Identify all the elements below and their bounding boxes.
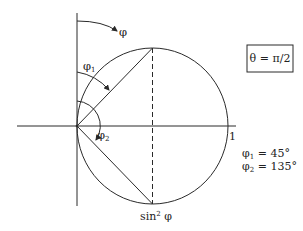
origin-point: [76, 125, 79, 128]
phi-label: φ: [119, 25, 127, 39]
polar-diagram: φ φ1 φ2 1 sin2 φ θ = π/2 φ1 = 45° φ2 = 1…: [0, 0, 303, 231]
phi1-label: φ1: [83, 59, 96, 74]
phi2-label: φ2: [97, 128, 110, 143]
phi2-value-label: φ2 = 135°: [242, 160, 297, 174]
phi1-arc-arrow: [77, 72, 109, 90]
phi1-value-label: φ1 = 45°: [242, 147, 290, 161]
unit-mark-label: 1: [229, 130, 236, 143]
theta-label: θ = π/2: [250, 52, 291, 65]
phi2-chord: [77, 126, 153, 204]
phi-arc-arrow: [77, 21, 117, 31]
sin2phi-label: sin2 φ: [140, 210, 172, 223]
